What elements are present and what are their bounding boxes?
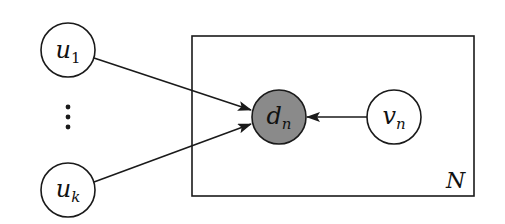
node-dn-subscript: n [282,115,292,133]
edge-uk-to-dn [94,124,251,182]
node-u1: u1 [41,23,95,77]
vertical-ellipsis [66,105,71,130]
plate-n: N [192,36,474,196]
edge-u1-to-dn [94,58,251,110]
edges [94,58,367,182]
node-u1-subscript: 1 [71,49,81,67]
node-u1-base: u [55,36,70,64]
plate-label: N [445,168,466,193]
node-vn-base: v [382,102,396,130]
node-vn: vn [367,90,421,144]
node-dn: dn [252,90,306,144]
graphical-model-diagram: N u1 uk dn vn [0,0,505,224]
node-vn-subscript: n [396,115,406,133]
node-uk-base: u [56,175,71,203]
node-dn-base: d [266,102,281,130]
node-uk-subscript: k [71,188,80,206]
node-uk: uk [41,163,95,217]
